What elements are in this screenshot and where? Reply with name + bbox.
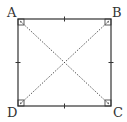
square-diagram: A B C D	[0, 0, 127, 122]
vertex-label-d: D	[7, 105, 17, 120]
vertex-label-c: C	[113, 105, 123, 120]
vertex-label-a: A	[6, 5, 17, 20]
vertex-label-b: B	[112, 5, 122, 20]
